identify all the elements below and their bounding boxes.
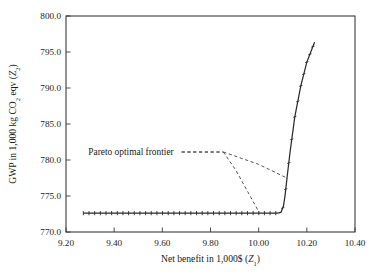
data-point-marker xyxy=(281,207,284,208)
data-point-marker xyxy=(311,46,314,47)
data-point-marker xyxy=(290,139,293,140)
y-tick-label: 790.0 xyxy=(40,83,61,93)
pareto-frontier-chart: 9.209.409.609.8010.0010.2010.40770.0775.… xyxy=(0,0,377,278)
annotation-pareto-optimal-frontier: Pareto optimal frontier xyxy=(88,147,174,157)
x-tick-label: 9.80 xyxy=(202,238,218,248)
y-axis-title: GWP in 1,000 kg CO2 eqv (Z2) xyxy=(7,64,21,184)
series-pareto-frontier-solid xyxy=(83,42,314,213)
data-point-marker xyxy=(296,101,299,102)
y-tick-label: 775.0 xyxy=(40,191,61,201)
x-tick-label: 9.40 xyxy=(106,238,122,248)
data-point-marker xyxy=(293,116,296,117)
y-tick-label: 795.0 xyxy=(40,47,61,57)
data-point-marker xyxy=(287,163,290,164)
chart-figure: 9.209.409.609.8010.0010.2010.40770.0775.… xyxy=(0,0,377,278)
x-tick-label: 10.20 xyxy=(296,238,317,248)
x-tick-label: 10.00 xyxy=(248,238,269,248)
y-tick-label: 785.0 xyxy=(40,119,61,129)
x-tick-label: 10.40 xyxy=(345,238,366,248)
data-point-marker xyxy=(302,73,305,74)
series-markers-pareto-frontier-solid xyxy=(83,46,314,215)
y-tick-label: 800.0 xyxy=(40,11,61,21)
data-point-marker xyxy=(308,54,311,55)
y-tick-label: 770.0 xyxy=(40,227,61,237)
data-point-marker xyxy=(284,189,287,190)
series-frontier-branch-steep-dashed xyxy=(223,152,259,213)
y-tick-label: 780.0 xyxy=(40,155,61,165)
x-tick-label: 9.60 xyxy=(154,238,170,248)
x-tick-label: 9.20 xyxy=(58,238,74,248)
series-frontier-branch-shallow-dashed xyxy=(223,152,288,179)
data-point-marker xyxy=(299,85,302,86)
data-point-marker xyxy=(305,62,308,63)
x-axis-title: Net benefit in 1,000$ (Z1) xyxy=(161,253,260,267)
